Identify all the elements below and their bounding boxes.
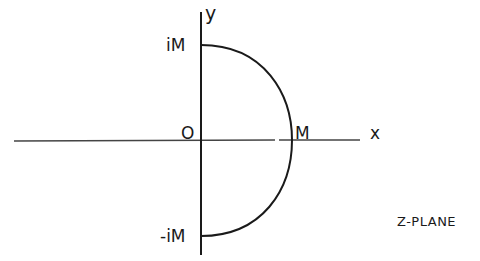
im-label: iM [166,37,185,54]
m-label: M [295,125,310,142]
origin-label: O [181,125,194,142]
y-axis-label: y [205,4,216,23]
z-plane-diagram: y iM O M x -iM Z-PLANE [0,0,480,261]
neg-im-label: -iM [160,228,186,245]
plane-title: Z-PLANE [397,215,456,228]
x-axis-label: x [370,125,380,142]
x-axis [14,140,275,141]
